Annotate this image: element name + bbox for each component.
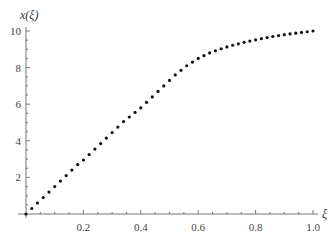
data-point: [214, 49, 217, 52]
data-point: [271, 35, 274, 38]
data-point: [208, 51, 211, 54]
data-point: [156, 90, 159, 93]
data-point: [237, 42, 240, 45]
data-point: [162, 84, 165, 87]
data-point: [300, 31, 303, 34]
data-point: [174, 73, 177, 76]
data-point: [277, 34, 280, 37]
data-point: [145, 101, 148, 104]
data-point: [93, 147, 96, 150]
data-points: [24, 29, 314, 215]
x-tick-label: 1.0: [306, 221, 320, 233]
data-point: [168, 79, 171, 82]
data-point: [225, 45, 228, 48]
data-point: [59, 179, 62, 182]
data-point: [265, 36, 268, 39]
x-tick-label: 0.2: [77, 221, 91, 233]
data-point: [76, 163, 79, 166]
y-tick-label: 4: [16, 135, 22, 147]
data-point: [111, 131, 114, 134]
data-point: [191, 61, 194, 64]
y-tick-label: 10: [10, 25, 22, 37]
data-point: [151, 95, 154, 98]
data-point: [88, 153, 91, 156]
data-point: [283, 33, 286, 36]
data-point: [70, 168, 73, 171]
data-point: [122, 120, 125, 123]
data-point: [179, 69, 182, 72]
chart: 0.20.40.60.81.0246810 x(ξ) ξ: [0, 0, 336, 239]
data-point: [231, 44, 234, 47]
data-point: [294, 32, 297, 35]
data-point: [42, 196, 45, 199]
data-point: [53, 185, 56, 188]
y-tick-label: 8: [16, 62, 22, 74]
data-point: [133, 111, 136, 114]
data-point: [254, 38, 257, 41]
y-tick-label: 2: [16, 171, 22, 183]
data-point: [202, 54, 205, 57]
data-point: [311, 29, 314, 32]
data-point: [65, 174, 68, 177]
data-point: [220, 47, 223, 50]
data-point: [260, 37, 263, 40]
x-tick-label: 0.6: [191, 221, 205, 233]
x-axis-label: ξ: [322, 207, 328, 221]
data-point: [82, 158, 85, 161]
data-point: [116, 125, 119, 128]
x-tick-label: 0.8: [249, 221, 263, 233]
data-point: [30, 207, 33, 210]
x-tick-label: 0.4: [134, 221, 148, 233]
data-point: [197, 57, 200, 60]
data-point: [99, 142, 102, 145]
data-point: [105, 136, 108, 139]
y-axis-label: x(ξ): [19, 8, 38, 22]
data-point: [248, 39, 251, 42]
y-tick-label: 6: [16, 98, 22, 110]
data-point: [306, 30, 309, 33]
axes: 0.20.40.60.81.0246810: [10, 25, 320, 233]
data-point: [288, 32, 291, 35]
data-point: [139, 106, 142, 109]
data-point: [47, 190, 50, 193]
data-point: [128, 115, 131, 118]
data-point: [36, 201, 39, 204]
data-point: [24, 212, 27, 215]
data-point: [243, 41, 246, 44]
data-point: [185, 64, 188, 67]
